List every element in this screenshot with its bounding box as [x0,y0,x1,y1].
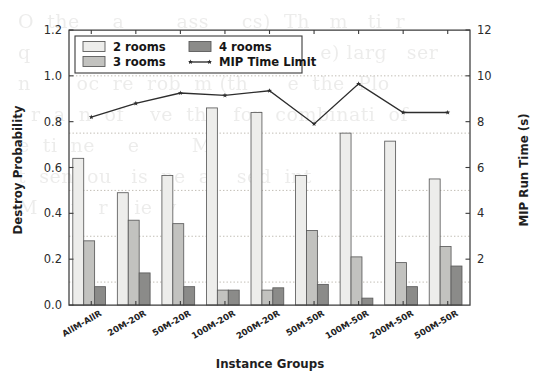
bar-50m-20r-2-rooms [162,176,173,305]
bar-100m-20r-4-rooms [228,290,239,305]
bar-200m-20r-4-rooms [273,288,284,305]
bar-200m-50r-3-rooms [396,263,407,305]
x-category-label-20m-20r: 20M-20R [106,308,148,338]
destroy-probability-chart: 0.00.20.40.60.81.01.2 24681012 AllM-AllR… [0,0,545,378]
y-tick-label: 0.0 [44,298,62,312]
bar-200m-20r-3-rooms [262,290,273,305]
x-category-label-200m-50r: 200M-50R [368,308,415,341]
mip-time-limit-line-series [89,81,450,126]
x-category-label-50m-20r: 50M-20R [150,308,192,338]
bar-allm-allr-2-rooms [73,158,84,305]
bar-series-group [73,108,462,305]
bar-50m-50r-3-rooms [306,231,317,305]
x-category-label-allm-allr: AllM-AllR [60,308,103,339]
legend-swatch-4-rooms [189,42,211,52]
bar-20m-20r-4-rooms [139,273,150,305]
bar-500m-50r-2-rooms [429,179,440,305]
y2-tick-label: 2 [477,252,484,266]
y2-axis-title: MIP Run Time (s) [517,113,531,226]
legend-swatch-3-rooms [83,57,105,67]
bar-100m-20r-2-rooms [206,108,217,305]
y2-tick-label: 4 [477,206,484,220]
legend-swatch-2-rooms [83,42,105,52]
y-tick-label: 0.4 [44,206,62,220]
chart-legend: 2 rooms4 rooms3 roomsMIP Time Limit [75,36,317,73]
legend-label-3-rooms: 3 rooms [113,55,166,69]
bar-50m-20r-4-rooms [184,287,195,305]
legend-label-4-rooms: 4 rooms [219,40,272,54]
bar-200m-50r-4-rooms [407,287,418,305]
x-category-label-200m-20r: 200M-20R [234,308,281,341]
y-tick-label: 0.8 [44,115,62,129]
bar-20m-20r-3-rooms [128,220,139,305]
x-axis-category-labels: AllM-AllR20M-20R50M-20R100M-20R200M-20R5… [60,308,460,341]
bar-50m-50r-2-rooms [296,176,307,305]
y2-tick-label: 8 [477,115,484,129]
bar-100m-20r-3-rooms [217,290,228,305]
bar-100m-50r-4-rooms [362,298,373,305]
y-tick-label: 0.2 [44,252,62,266]
mip-time-limit-marker-1 [133,101,138,106]
legend-label-2-rooms: 2 rooms [113,40,166,54]
mip-time-limit-marker-8 [445,110,450,115]
y-axis-title: Destroy Probability [11,105,25,234]
y-tick-label: 0.6 [44,161,62,175]
chart-figure: 0.00.20.40.60.81.01.2 24681012 AllM-AllR… [0,0,545,378]
y2-tick-label: 6 [477,161,484,175]
bar-100m-50r-2-rooms [340,133,351,305]
bar-50m-50r-4-rooms [317,284,328,305]
x-category-label-100m-50r: 100M-50R [323,308,370,341]
bar-allm-allr-4-rooms [95,287,106,305]
x-category-label-100m-20r: 100M-20R [190,308,237,341]
mip-time-limit-marker-0 [89,114,94,119]
bar-allm-allr-3-rooms [84,241,95,305]
bar-50m-20r-3-rooms [173,224,184,305]
bar-20m-20r-2-rooms [117,193,128,305]
bar-500m-50r-3-rooms [440,247,451,305]
bar-200m-20r-2-rooms [251,113,262,306]
y-tick-label: 1.0 [44,69,62,83]
mip-time-limit-marker-3 [222,93,227,98]
x-axis-title: Instance Groups [216,357,324,371]
bar-500m-50r-4-rooms [451,266,462,305]
bar-200m-50r-2-rooms [385,141,396,305]
y2-tick-label: 10 [477,69,492,83]
legend-label-MIP-Time-Limit: MIP Time Limit [219,55,317,69]
bar-100m-50r-3-rooms [351,257,362,305]
x-category-label-50m-50r: 50M-50R [284,308,326,338]
x-category-label-500m-50r: 500M-50R [413,308,460,341]
y2-tick-label: 12 [477,23,492,37]
mip-time-limit-marker-2 [178,90,183,95]
y-tick-label: 1.2 [44,23,62,37]
